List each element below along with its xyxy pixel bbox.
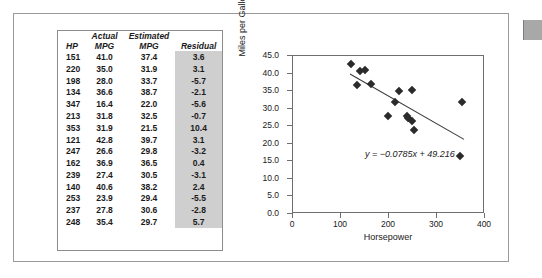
table-row: 25323.929.4-5.5 — [58, 193, 222, 205]
x-tick-label: 200 — [381, 219, 395, 229]
table-row: 14040.638.22.4 — [58, 181, 222, 193]
col-header-hp-top — [58, 31, 86, 41]
cell-hp: 237 — [58, 204, 86, 216]
cell-hp: 198 — [58, 75, 86, 87]
x-tick-mark — [292, 213, 293, 218]
col-header-actual-mpg: MPG — [86, 41, 123, 51]
cell-hp: 151 — [58, 51, 86, 63]
cell-residual: 10.4 — [175, 122, 222, 134]
col-header-hp: HP — [58, 41, 86, 51]
x-tick-label: 400 — [477, 219, 491, 229]
table-row: 19828.033.7-5.7 — [58, 75, 222, 87]
cell-estimated-mpg: 39.7 — [123, 134, 175, 146]
cell-residual: -5.7 — [175, 75, 222, 87]
table-row: 16236.936.50.4 — [58, 157, 222, 169]
cell-residual: -2.8 — [175, 204, 222, 216]
cell-estimated-mpg: 37.4 — [123, 51, 175, 63]
cell-residual: -0.7 — [175, 110, 222, 122]
cell-actual-mpg: 41.0 — [86, 51, 123, 63]
y-tick-label: 35.0 — [262, 85, 279, 95]
cell-residual: -3.2 — [175, 145, 222, 157]
y-tick-label: 0.0 — [267, 208, 279, 218]
x-tick-mark — [436, 213, 437, 218]
cell-estimated-mpg: 31.9 — [123, 63, 175, 75]
cell-hp: 121 — [58, 134, 86, 146]
y-tick-label: 45.0 — [262, 50, 279, 60]
cell-actual-mpg: 36.6 — [86, 86, 123, 98]
cell-actual-mpg: 23.9 — [86, 193, 123, 205]
table-row: 35331.921.510.4 — [58, 122, 222, 134]
y-tick-label: 20.0 — [262, 138, 279, 148]
y-axis-tick-labels: 0.05.010.015.020.025.030.035.040.045.0 — [245, 55, 279, 213]
table-row: 23727.830.6-2.8 — [58, 204, 222, 216]
cell-hp: 213 — [58, 110, 86, 122]
cell-actual-mpg: 40.6 — [86, 181, 123, 193]
x-tick-label: 300 — [429, 219, 443, 229]
cell-residual: 3.1 — [175, 63, 222, 75]
y-tick-label: 30.0 — [262, 103, 279, 113]
figure-panel: Actual Estimated HP MPG MPG Residual 151… — [13, 13, 509, 262]
cell-estimated-mpg: 30.5 — [123, 169, 175, 181]
table-row: 22035.031.93.1 — [58, 63, 222, 75]
y-tick-label: 10.0 — [262, 173, 279, 183]
cell-estimated-mpg: 29.4 — [123, 193, 175, 205]
col-header-residual: Residual — [175, 41, 222, 51]
cell-actual-mpg: 35.0 — [86, 63, 123, 75]
cell-actual-mpg: 28.0 — [86, 75, 123, 87]
cell-hp: 162 — [58, 157, 86, 169]
cell-estimated-mpg: 22.0 — [123, 98, 175, 110]
x-tick-mark — [340, 213, 341, 218]
cell-actual-mpg: 26.6 — [86, 145, 123, 157]
cell-hp: 353 — [58, 122, 86, 134]
table-row: 13436.638.7-2.1 — [58, 86, 222, 98]
cell-estimated-mpg: 36.5 — [123, 157, 175, 169]
cell-hp: 220 — [58, 63, 86, 75]
cell-actual-mpg: 27.4 — [86, 169, 123, 181]
cell-residual: 5.7 — [175, 216, 222, 228]
trend-line — [293, 56, 483, 212]
cell-estimated-mpg: 33.7 — [123, 75, 175, 87]
x-axis-tick-labels: 0100200300400 — [292, 219, 484, 233]
y-tick-label: 5.0 — [267, 190, 279, 200]
table-row: 15141.037.43.6 — [58, 51, 222, 63]
x-tick-mark — [388, 213, 389, 218]
table-row: 23927.430.5-3.1 — [58, 169, 222, 181]
y-tick-label: 15.0 — [262, 155, 279, 165]
residual-table: Actual Estimated HP MPG MPG Residual 151… — [58, 31, 222, 228]
cell-hp: 253 — [58, 193, 86, 205]
table-header-row-top: Actual Estimated — [58, 31, 222, 41]
scatter-chart: Miles per Gallon 0.05.010.015.020.025.03… — [239, 36, 501, 246]
cell-estimated-mpg: 29.7 — [123, 216, 175, 228]
col-header-residual-top — [175, 31, 222, 41]
cell-actual-mpg: 31.9 — [86, 122, 123, 134]
cell-residual: 3.1 — [175, 134, 222, 146]
table-row: 34716.422.0-5.6 — [58, 98, 222, 110]
col-header-estimated-top: Estimated — [123, 31, 175, 41]
cell-actual-mpg: 27.8 — [86, 204, 123, 216]
cell-actual-mpg: 31.8 — [86, 110, 123, 122]
table-row: 21331.832.5-0.7 — [58, 110, 222, 122]
cell-hp: 239 — [58, 169, 86, 181]
cell-residual: -3.1 — [175, 169, 222, 181]
cell-estimated-mpg: 29.8 — [123, 145, 175, 157]
cell-actual-mpg: 35.4 — [86, 216, 123, 228]
x-tick-mark — [484, 213, 485, 218]
cell-hp: 140 — [58, 181, 86, 193]
cell-estimated-mpg: 38.7 — [123, 86, 175, 98]
residual-table-container: Actual Estimated HP MPG MPG Residual 151… — [57, 30, 223, 251]
cell-residual: 3.6 — [175, 51, 222, 63]
x-tick-label: 100 — [333, 219, 347, 229]
cell-residual: 0.4 — [175, 157, 222, 169]
cell-residual: -2.1 — [175, 86, 222, 98]
cell-hp: 247 — [58, 145, 86, 157]
table-row: 24835.429.75.7 — [58, 216, 222, 228]
table-header-row-bottom: HP MPG MPG Residual — [58, 41, 222, 51]
cell-actual-mpg: 36.9 — [86, 157, 123, 169]
table-header: Actual Estimated HP MPG MPG Residual — [58, 31, 222, 51]
cell-estimated-mpg: 32.5 — [123, 110, 175, 122]
cell-estimated-mpg: 30.6 — [123, 204, 175, 216]
cell-estimated-mpg: 21.5 — [123, 122, 175, 134]
y-tick-label: 40.0 — [262, 68, 279, 78]
cell-actual-mpg: 16.4 — [86, 98, 123, 110]
x-axis-label: Horsepower — [292, 232, 484, 242]
